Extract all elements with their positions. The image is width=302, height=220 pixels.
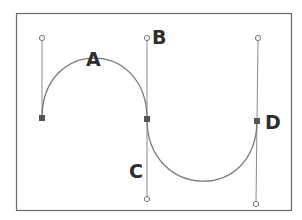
label-c: C	[129, 160, 143, 182]
label-b: B	[152, 26, 166, 48]
left-anchor-point[interactable]	[39, 115, 45, 121]
left-handle-top-point[interactable]	[39, 35, 44, 40]
middle-handle-top-point[interactable]	[144, 35, 149, 40]
label-d: D	[265, 111, 281, 133]
diagram-svg: A B C D	[0, 0, 302, 220]
middle-handle-bottom-point[interactable]	[144, 196, 149, 201]
right-handle-top-point[interactable]	[255, 35, 260, 40]
bezier-diagram: A B C D	[0, 0, 302, 220]
right-anchor-point[interactable]	[254, 118, 260, 124]
label-a: A	[86, 48, 101, 70]
right-handle-bottom-point[interactable]	[253, 201, 258, 206]
middle-anchor-point[interactable]	[144, 116, 150, 122]
